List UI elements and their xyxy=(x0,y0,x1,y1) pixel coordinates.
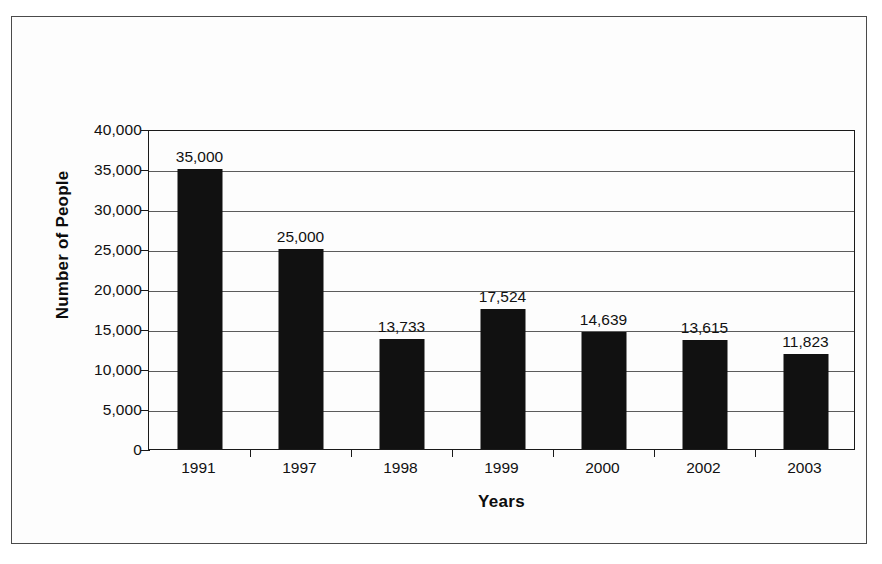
bar-slot-2003: 11,823 xyxy=(755,131,856,449)
bar-1999[interactable] xyxy=(480,309,525,449)
bar-chart: Number of People 40,000 35,000 30,000 25… xyxy=(0,0,882,564)
bar-2003[interactable] xyxy=(783,354,828,449)
bar-1997[interactable] xyxy=(278,249,323,449)
bar-value-label-1991: 35,000 xyxy=(176,149,223,165)
bar-slot-1999: 17,524 xyxy=(452,131,553,449)
bar-value-label-1999: 17,524 xyxy=(479,289,526,305)
bar-1991[interactable] xyxy=(177,169,222,449)
x-tick-mark-5 xyxy=(654,449,655,457)
x-tick-label-1991: 1991 xyxy=(148,459,249,477)
x-axis-title: Years xyxy=(148,492,855,512)
bar-value-label-1998: 13,733 xyxy=(378,319,425,335)
bar-slot-1997: 25,000 xyxy=(250,131,351,449)
y-tick-mark-0 xyxy=(141,450,150,451)
bar-2002[interactable] xyxy=(682,340,727,449)
plot-area: 35,000 25,000 13,733 17,524 14,639 13,61… xyxy=(148,130,855,450)
x-tick-label-1997: 1997 xyxy=(249,459,350,477)
x-tick-mark-2 xyxy=(351,449,352,457)
bar-value-label-1997: 25,000 xyxy=(277,229,324,245)
bar-slot-1991: 35,000 xyxy=(149,131,250,449)
x-tick-mark-6 xyxy=(755,449,756,457)
x-tick-label-2000: 2000 xyxy=(552,459,653,477)
y-axis-tick-marks xyxy=(0,130,160,450)
x-tick-label-2002: 2002 xyxy=(653,459,754,477)
x-axis-tick-labels: 1991 1997 1998 1999 2000 2002 2003 xyxy=(148,459,855,483)
bar-slot-2000: 14,639 xyxy=(553,131,654,449)
x-tick-mark-4 xyxy=(553,449,554,457)
x-tick-label-2003: 2003 xyxy=(754,459,855,477)
x-tick-label-1999: 1999 xyxy=(451,459,552,477)
scanned-page: Number of People 40,000 35,000 30,000 25… xyxy=(0,0,882,564)
bar-value-label-2003: 11,823 xyxy=(782,334,828,350)
bar-value-label-2002: 13,615 xyxy=(681,320,728,336)
x-tick-label-1998: 1998 xyxy=(350,459,451,477)
bar-1998[interactable] xyxy=(379,339,424,449)
bar-value-label-2000: 14,639 xyxy=(580,312,627,328)
bar-2000[interactable] xyxy=(581,332,626,449)
x-tick-mark-1 xyxy=(250,449,251,457)
bar-slot-2002: 13,615 xyxy=(654,131,755,449)
bar-slot-1998: 13,733 xyxy=(351,131,452,449)
x-tick-mark-3 xyxy=(452,449,453,457)
